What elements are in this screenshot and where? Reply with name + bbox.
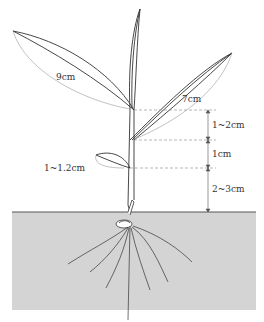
leaf-9cm	[13, 31, 134, 110]
label-internode-upper: 1~2cm	[212, 120, 245, 130]
label-9cm: 9cm	[56, 72, 75, 82]
label-above-soil: 2~3cm	[212, 184, 245, 194]
seedling-diagram: 9cm 7cm 1~2cm 1cm 2~3cm 1~1.2cm	[0, 0, 264, 322]
label-small-leaf: 1~1.2cm	[44, 163, 85, 173]
dimension-line	[206, 110, 210, 212]
label-internode-mid: 1cm	[212, 149, 231, 159]
reference-lines	[130, 110, 216, 168]
stem	[128, 9, 140, 212]
label-7cm: 7cm	[182, 94, 201, 104]
leaf-small	[96, 153, 130, 168]
measure-arc-9cm	[13, 31, 130, 109]
